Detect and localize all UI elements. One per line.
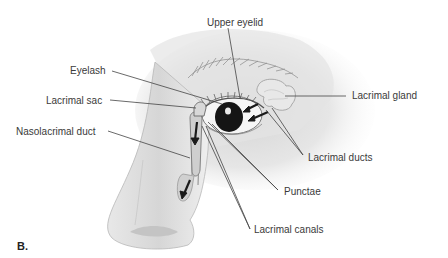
label-punctae: Punctae <box>284 186 321 198</box>
lacrimal-apparatus-diagram: Upper eyelid Eyelash Lacrimal sac Nasola… <box>0 0 448 258</box>
label-eyelash: Eyelash <box>70 65 106 77</box>
label-lacrimal-canals: Lacrimal canals <box>254 224 323 236</box>
label-upper-eyelid: Upper eyelid <box>207 17 263 29</box>
label-lacrimal-sac: Lacrimal sac <box>46 95 102 107</box>
lacrimal-sac <box>194 102 206 116</box>
label-nasolacrimal-duct: Nasolacrimal duct <box>16 126 95 138</box>
label-lacrimal-gland: Lacrimal gland <box>352 90 417 102</box>
label-lacrimal-ducts: Lacrimal ducts <box>308 152 372 164</box>
panel-label: B. <box>17 240 28 252</box>
